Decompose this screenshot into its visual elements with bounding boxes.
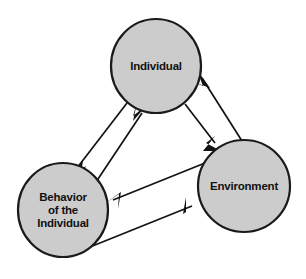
node-individual[interactable]: Individual xyxy=(111,19,201,113)
node-behavior-label-line1: Behavior xyxy=(39,191,87,203)
edge-line-environment-to-individual xyxy=(202,78,242,141)
arrow-head-to-environment-bottom xyxy=(183,197,201,214)
edge-environment-to-individual xyxy=(194,70,242,141)
edge-line-individual-to-behavior xyxy=(77,103,127,168)
node-environment[interactable]: Environment xyxy=(198,140,290,232)
edge-line-environment-to-behavior xyxy=(113,163,205,200)
node-behavior-label-line2: of the xyxy=(48,204,78,216)
node-behavior[interactable]: Behavior of the Individual xyxy=(18,163,108,257)
diagram-canvas: Individual Behavior of the Individual En… xyxy=(0,0,306,279)
node-individual-label: Individual xyxy=(130,60,182,72)
edge-behavior-to-individual xyxy=(96,103,147,182)
edge-line-individual-to-environment xyxy=(185,104,215,143)
reciprocal-determinism-diagram: Individual Behavior of the Individual En… xyxy=(0,0,306,279)
edge-line-behavior-to-individual xyxy=(96,113,142,182)
edge-individual-to-environment xyxy=(185,104,221,151)
node-environment-label: Environment xyxy=(210,180,278,192)
node-behavior-label-line3: Individual xyxy=(37,217,89,229)
edge-environment-to-behavior xyxy=(104,163,205,209)
